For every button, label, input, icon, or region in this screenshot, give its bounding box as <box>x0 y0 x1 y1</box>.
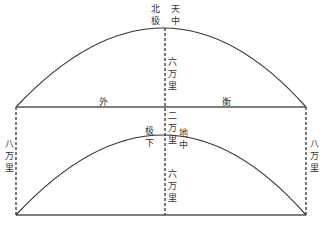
heaven-arc <box>16 28 306 107</box>
label-upper-center-distance: 六万里 <box>167 56 177 92</box>
label-ji-top: 极 <box>151 16 160 26</box>
label-lower-center-distance: 六万里 <box>167 168 177 204</box>
label-bei: 北 <box>151 4 160 14</box>
label-left-side-distance: 八万里 <box>4 138 14 174</box>
label-zhong-top: 中 <box>171 16 180 26</box>
label-zhong-bottom: 中 <box>179 140 188 150</box>
label-tian: 天 <box>171 4 180 14</box>
label-wai: 外 <box>99 97 108 107</box>
label-right-side-distance: 八万里 <box>309 138 319 174</box>
label-xia: 下 <box>145 138 154 148</box>
earth-arc <box>16 135 306 215</box>
label-di: 地 <box>179 128 188 138</box>
label-ji-bottom: 极 <box>145 126 154 136</box>
gaitian-cosmology-diagram <box>0 0 322 228</box>
label-heng: 衡 <box>222 97 231 107</box>
label-gap-distance: 二万里 <box>167 110 177 146</box>
